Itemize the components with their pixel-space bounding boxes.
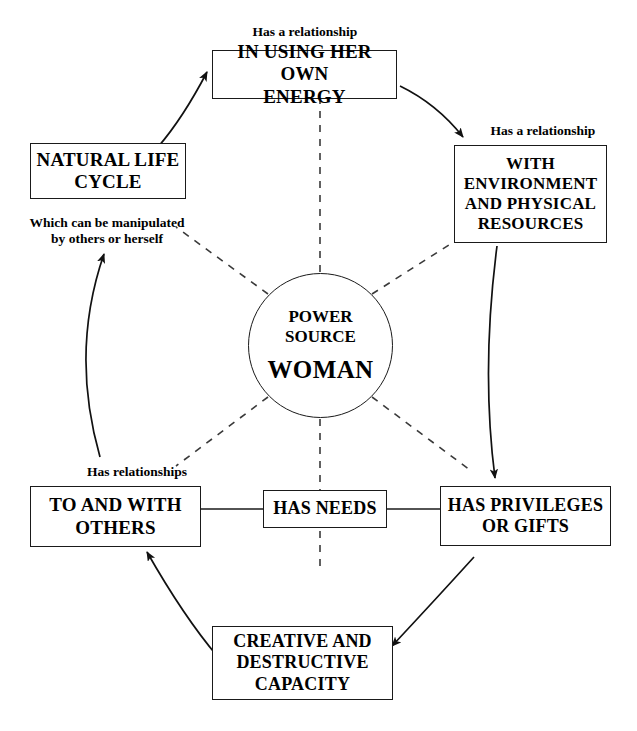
- annotation-bottom-left: Has relationships: [62, 464, 212, 480]
- diagram-canvas: Has a relationship Has a relationship Wh…: [0, 0, 637, 731]
- node-label: WITH ENVIRONMENT AND PHYSICAL RESOURCES: [459, 154, 603, 234]
- node-in-using-her-own-energy[interactable]: IN USING HER OWN ENERGY: [212, 50, 397, 99]
- center-subject: WOMAN: [267, 356, 373, 384]
- annotation-left: Which can be manipulated by others or he…: [14, 215, 200, 248]
- node-natural-life-cycle[interactable]: NATURAL LIFE CYCLE: [30, 143, 186, 199]
- center-heading: POWER SOURCE: [285, 307, 356, 346]
- spoke-center-to-privileges: [372, 397, 470, 470]
- arrow-creative-to-others: [147, 552, 218, 657]
- node-creative-and-destructive-capacity[interactable]: CREATIVE AND DESTRUCTIVE CAPACITY: [212, 626, 393, 700]
- arrow-energy-to-environment: [400, 86, 463, 137]
- spoke-center-to-environment: [372, 243, 452, 294]
- node-has-privileges-or-gifts[interactable]: HAS PRIVILEGES OR GIFTS: [440, 486, 611, 546]
- node-label: HAS NEEDS: [268, 498, 381, 519]
- arrow-privileges-to-creative: [392, 557, 474, 646]
- node-has-needs[interactable]: HAS NEEDS: [263, 490, 387, 528]
- node-with-environment-and-physical-resources[interactable]: WITH ENVIRONMENT AND PHYSICAL RESOURCES: [454, 145, 607, 243]
- annotation-right: Has a relationship: [468, 123, 618, 139]
- node-to-and-with-others[interactable]: TO AND WITH OTHERS: [30, 486, 201, 547]
- node-label: IN USING HER OWN ENERGY: [213, 41, 396, 108]
- node-label: CREATIVE AND DESTRUCTIVE CAPACITY: [228, 631, 377, 695]
- node-power-source-woman[interactable]: POWER SOURCE WOMAN: [248, 273, 393, 418]
- arrow-natural-to-energy: [158, 72, 207, 147]
- node-label: HAS PRIVILEGES OR GIFTS: [443, 495, 608, 537]
- spoke-center-to-others: [176, 397, 268, 466]
- arrow-others-to-natural: [86, 254, 104, 457]
- node-label: TO AND WITH OTHERS: [44, 494, 186, 539]
- node-label: NATURAL LIFE CYCLE: [32, 149, 185, 194]
- annotation-top: Has a relationship: [222, 24, 388, 40]
- arrow-environment-to-privileges: [488, 246, 497, 478]
